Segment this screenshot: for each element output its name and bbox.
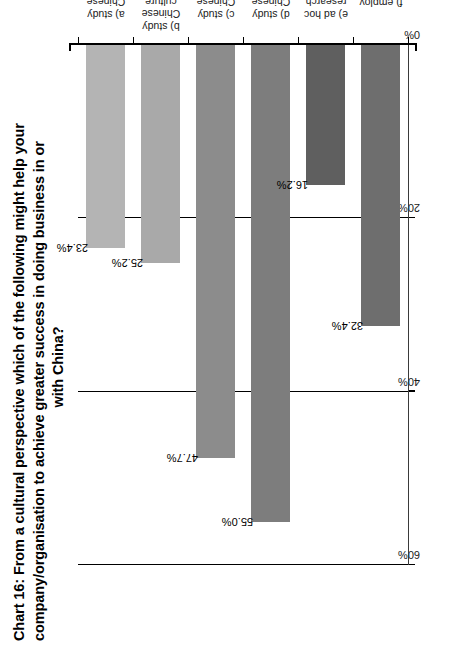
category-axis-tick [133, 37, 134, 44]
category-axis-tick [298, 37, 299, 44]
category-label-2: c) study Chinese culture and language co… [188, 0, 243, 21]
category-axis-tick [78, 37, 79, 44]
bar-4 [306, 45, 345, 185]
category-label-3: d) study Chinese business culture [243, 0, 298, 21]
chart-title: Chart 16: From a cultural perspective wh… [10, 41, 69, 641]
bar-value-label-0: 23.4% [57, 242, 88, 254]
bar-value-label-5: 32.4% [332, 320, 363, 332]
chart-title-line-3: with China? [49, 93, 69, 641]
bar-5 [361, 45, 400, 326]
plot-area: 0%20%40%60%23.4%a) study Chinese languag… [78, 45, 408, 565]
bar-value-label-2: 47.7% [167, 452, 198, 464]
axis-tick-label-0%: 0% [404, 29, 420, 41]
category-axis-tick [353, 37, 354, 44]
bar-1 [141, 45, 180, 263]
value-axis-line [408, 45, 409, 565]
chart-title-line-1: Chart 16: From a cultural perspective wh… [10, 41, 30, 641]
chart-canvas: Chart 16: From a cultural perspective wh… [0, 0, 473, 651]
category-label-1: b) study Chinese culture [133, 0, 188, 33]
category-axis-tick [408, 37, 409, 44]
bar-value-label-4: 16.2% [277, 179, 308, 191]
chart-title-line-2: company/organisation to achieve greater … [30, 41, 50, 641]
category-label-4: e) ad hoc research services [298, 0, 353, 21]
gridline-40% [78, 391, 408, 392]
bar-value-label-3: 55.0% [222, 516, 253, 528]
gridline-60% [78, 564, 408, 565]
category-label-5: f) employ university graduates specialis… [353, 0, 408, 9]
bar-value-label-1: 25.2% [112, 257, 143, 269]
bar-3 [251, 45, 290, 522]
bar-2 [196, 45, 235, 458]
category-axis-tick [243, 37, 244, 44]
category-axis-cap-end [415, 44, 417, 51]
category-axis-cap-start [69, 44, 71, 51]
bar-0 [86, 45, 125, 248]
category-axis-tick [188, 37, 189, 44]
gridline-20% [78, 217, 408, 218]
category-label-0: a) study Chinese language [78, 0, 133, 21]
